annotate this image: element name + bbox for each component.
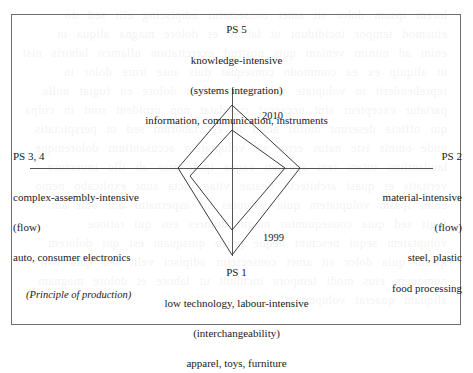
series-label-1999: 1999 <box>263 232 284 243</box>
axis-label-right-line2: (flow) <box>383 220 462 235</box>
axis-label-bottom-line3: apparel, toys, furniture <box>0 356 473 371</box>
axis-label-right-line1: material-intensive <box>383 190 462 205</box>
axis-label-left-line1: complex-assembly-intensive <box>13 190 139 205</box>
axis-label-top-code: PS 5 <box>0 22 473 37</box>
axis-label-right-code: PS 2 <box>383 149 462 164</box>
axis-label-left-code: PS 3, 4 <box>13 149 139 164</box>
axis-label-top-line1: knowledge-intensive <box>0 53 473 68</box>
axis-label-bottom-line2: (interchangeability) <box>0 326 473 341</box>
axis-label-bottom: PS 1 low technology, labour-intensive (i… <box>0 250 473 373</box>
axis-label-top: PS 5 knowledge-intensive (systems integr… <box>0 7 473 144</box>
axis-label-top-line3: information, communication, instruments <box>0 113 473 128</box>
axis-label-top-line2: (systems integration) <box>0 83 473 98</box>
axis-label-left-line2: (flow) <box>13 220 139 235</box>
principle-of-production-note: (Principle of production) <box>26 289 131 300</box>
axis-label-bottom-code: PS 1 <box>0 265 473 280</box>
